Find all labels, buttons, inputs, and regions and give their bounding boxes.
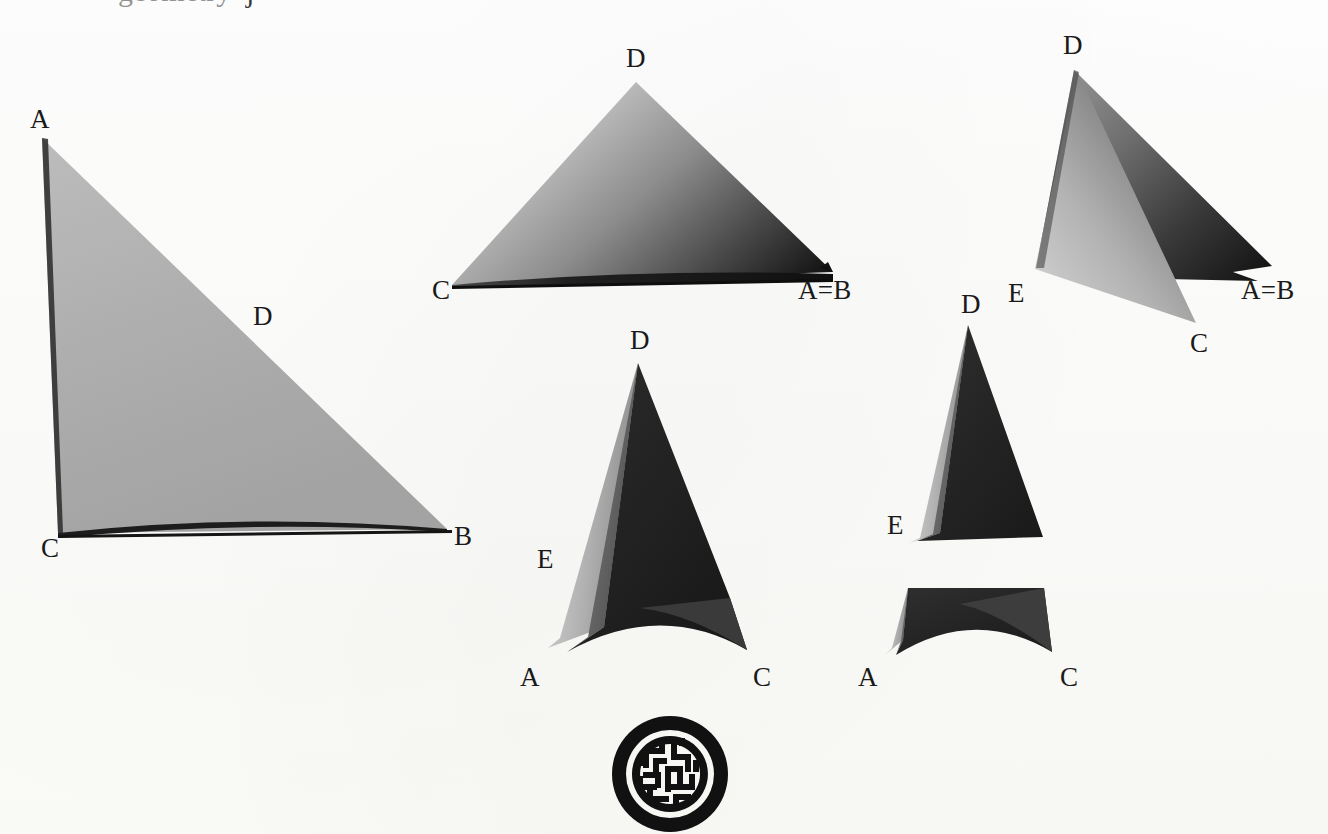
figure-2-label-AB: A=B (798, 277, 851, 304)
figure-3-top-right-triangle (1035, 70, 1272, 323)
figure-2-main-face (452, 82, 833, 285)
publisher-seal-logo (609, 714, 731, 834)
figure-3-label-D: D (1063, 32, 1083, 59)
figure-3-label-C: C (1190, 330, 1208, 357)
figure-2-top-middle-triangle (452, 82, 833, 289)
figure-1-label-B: B (454, 523, 472, 550)
figure-4-label-A: A (520, 664, 540, 691)
figure-1-face (42, 138, 447, 533)
figure-5-lower-piece (885, 588, 1052, 655)
figure-1-label-D: D (253, 303, 273, 330)
figure-4-bottom-middle-triangle (548, 363, 747, 652)
figure-1-label-C: C (41, 535, 59, 562)
figure-3-label-E: E (1008, 280, 1025, 307)
circular-maze-seal-icon (609, 714, 731, 834)
figure-3-label-AB: A=B (1241, 277, 1294, 304)
figure-5-label-C: C (1060, 664, 1078, 691)
figure-5-label-E: E (887, 512, 904, 539)
figure-5-label-A: A (858, 664, 878, 691)
geometric-figures-canvas (0, 0, 1328, 834)
figure-4-label-E: E (537, 546, 554, 573)
figure-4-label-C: C (753, 664, 771, 691)
figure-4-label-D: D (630, 327, 650, 354)
figure-5-upper-piece (909, 325, 1043, 543)
figure-1-large-left-triangle (42, 138, 452, 538)
figure-plate-page: geometry j (0, 0, 1328, 834)
figure-5-bottom-right-split-triangle (885, 325, 1052, 655)
figure-2-label-D: D (626, 45, 646, 72)
figure-2-label-C: C (432, 277, 450, 304)
figure-1-label-A: A (30, 106, 50, 133)
figure-5-label-D: D (961, 291, 981, 318)
